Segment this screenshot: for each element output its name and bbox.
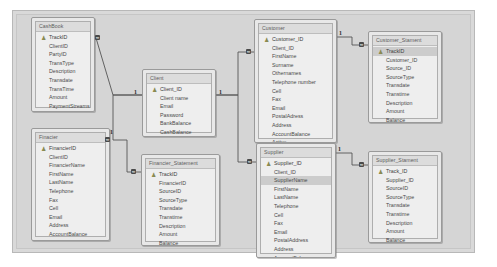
- field-row[interactable]: Description: [373, 99, 437, 108]
- field-row[interactable]: Client_ID: [259, 44, 332, 53]
- table-customer-fields: ♟ Customer_ID Client_ID FirstName Surnam…: [259, 34, 332, 143]
- field-row[interactable]: ♟ Track_ID: [373, 167, 437, 176]
- field-row[interactable]: Email: [147, 102, 211, 111]
- field-row[interactable]: ♟ FinancierID: [36, 144, 105, 153]
- table-financier-statement-title: Financier_Statement: [146, 159, 215, 169]
- field-label: SourceType: [159, 197, 187, 203]
- field-row[interactable]: ♟ Client_ID: [147, 85, 211, 94]
- field-row[interactable]: Supplier_ID: [373, 176, 437, 185]
- table-financier[interactable]: Finacier ♟ FinancierID ClientID Financie…: [31, 128, 110, 241]
- field-row[interactable]: FirstName: [261, 185, 331, 194]
- field-row[interactable]: Transtime: [373, 210, 437, 219]
- field-row[interactable]: Client_ID: [261, 168, 331, 177]
- field-row[interactable]: Othernames: [259, 69, 332, 78]
- field-row[interactable]: FinancierName: [36, 161, 105, 170]
- field-row[interactable]: Description: [373, 219, 437, 228]
- field-row[interactable]: Transdate: [373, 201, 437, 210]
- field-row[interactable]: FinancierID: [146, 179, 215, 188]
- field-row[interactable]: ♟ TrackID: [146, 170, 215, 179]
- field-row[interactable]: Description: [146, 222, 215, 231]
- field-row[interactable]: Fax: [261, 219, 331, 228]
- field-label: LastName: [49, 179, 73, 185]
- field-row[interactable]: Balance: [146, 239, 215, 246]
- table-cashbook-inner: CashBook ♟ TrackID ClientID PartyID Tran…: [35, 21, 91, 108]
- field-row[interactable]: Cell: [259, 87, 332, 96]
- field-row[interactable]: Fax: [36, 196, 105, 205]
- field-row[interactable]: SourceType: [146, 196, 215, 205]
- field-label: Balance: [386, 237, 405, 243]
- field-label: Description: [159, 223, 186, 229]
- field-row[interactable]: CashBalance: [147, 128, 211, 137]
- field-row[interactable]: Active: [36, 239, 105, 241]
- table-customer[interactable]: Customer ♟ Customer_ID Client_ID FirstNa…: [254, 19, 337, 143]
- field-row[interactable]: Address: [36, 221, 105, 230]
- field-row[interactable]: PartyID: [36, 50, 90, 59]
- field-row[interactable]: BankBalance: [147, 119, 211, 128]
- field-row[interactable]: TransTime: [36, 85, 90, 94]
- field-row[interactable]: Email: [261, 228, 331, 237]
- field-row[interactable]: Address: [259, 121, 332, 130]
- table-cashbook[interactable]: CashBook ♟ TrackID ClientID PartyID Tran…: [31, 17, 95, 112]
- field-row[interactable]: LastName: [261, 193, 331, 202]
- field-row[interactable]: SupplierName: [261, 176, 331, 185]
- field-row[interactable]: FirstName: [36, 170, 105, 179]
- field-row[interactable]: ♟ Supplier_ID: [261, 159, 331, 168]
- field-row[interactable]: AccountBalance: [36, 230, 105, 239]
- table-client[interactable]: Client ♟ Client_ID Client name Email Pas…: [142, 69, 216, 137]
- field-row[interactable]: Address: [261, 245, 331, 254]
- field-row[interactable]: Email: [36, 213, 105, 222]
- field-row[interactable]: ♟ TrackID: [36, 33, 90, 42]
- field-row[interactable]: Amount: [373, 107, 437, 116]
- field-row[interactable]: ClientID: [36, 153, 105, 162]
- field-row[interactable]: ClientID: [36, 42, 90, 51]
- table-customer-statment[interactable]: Customer_Stament ♟ TrackID Customer_ID S…: [368, 31, 442, 123]
- field-row[interactable]: Surname: [259, 61, 332, 70]
- field-row[interactable]: Source_ID: [373, 64, 437, 73]
- field-row[interactable]: Telephone: [36, 187, 105, 196]
- field-row[interactable]: Transtime: [373, 90, 437, 99]
- field-row[interactable]: Amount: [36, 93, 90, 102]
- field-row[interactable]: Password: [147, 111, 211, 120]
- field-row[interactable]: Client name: [147, 94, 211, 103]
- field-row[interactable]: Email: [259, 104, 332, 113]
- field-row[interactable]: AccountBalance: [259, 130, 332, 139]
- field-row[interactable]: SourceType: [373, 193, 437, 202]
- field-row[interactable]: Transdate: [146, 204, 215, 213]
- table-customer-statment-fields: ♟ TrackID Customer_ID Source_ID SourceTy…: [373, 46, 437, 123]
- field-row[interactable]: Balance: [373, 236, 437, 243]
- field-row[interactable]: Transdate: [373, 81, 437, 90]
- table-customer-inner: Customer ♟ Customer_ID Client_ID FirstNa…: [258, 23, 333, 139]
- table-financier-inner: Finacier ♟ FinancierID ClientID Financie…: [35, 132, 106, 237]
- field-row[interactable]: ♟ TrackID: [373, 47, 437, 56]
- table-client-fields: ♟ Client_ID Client name Email Password B…: [147, 84, 211, 137]
- field-row[interactable]: Telephone: [261, 202, 331, 211]
- field-label: Fax: [274, 220, 283, 226]
- field-label: AccountBalance: [272, 131, 310, 137]
- field-row[interactable]: Transtime: [146, 213, 215, 222]
- field-row[interactable]: ♟ Customer_ID: [259, 35, 332, 44]
- field-row[interactable]: Fax: [259, 95, 332, 104]
- field-row[interactable]: Amount: [373, 227, 437, 236]
- field-row[interactable]: SourceID: [146, 187, 215, 196]
- field-row[interactable]: Customer_ID: [373, 56, 437, 65]
- field-row[interactable]: PostalAdress: [259, 112, 332, 121]
- table-supplier[interactable]: Supplier ♟ Supplier_ID Client_ID Supplie…: [256, 143, 336, 258]
- field-row[interactable]: Transdate: [36, 76, 90, 85]
- field-row[interactable]: Description: [36, 67, 90, 76]
- field-label: FinancierID: [49, 145, 76, 151]
- field-row[interactable]: Telephone number: [259, 78, 332, 87]
- field-row[interactable]: Balance: [373, 116, 437, 123]
- field-row[interactable]: LastName: [36, 178, 105, 187]
- field-row[interactable]: PostalAddress: [261, 236, 331, 245]
- field-row[interactable]: SourceID: [373, 184, 437, 193]
- field-row[interactable]: FirstName: [259, 52, 332, 61]
- table-financier-statement[interactable]: Financier_Statement ♟ TrackID FinancierI…: [141, 154, 220, 246]
- field-row[interactable]: Cell: [261, 211, 331, 220]
- field-row[interactable]: SourceType: [373, 73, 437, 82]
- field-row[interactable]: Cell: [36, 204, 105, 213]
- field-row[interactable]: TransType: [36, 59, 90, 68]
- field-row[interactable]: AccountBalance: [261, 254, 331, 258]
- field-row[interactable]: Amount: [146, 230, 215, 239]
- table-supplier-statment[interactable]: Supplier_Stament ♟ Track_ID Supplier_ID …: [368, 151, 442, 243]
- field-row[interactable]: PaymentStreams: [36, 102, 90, 111]
